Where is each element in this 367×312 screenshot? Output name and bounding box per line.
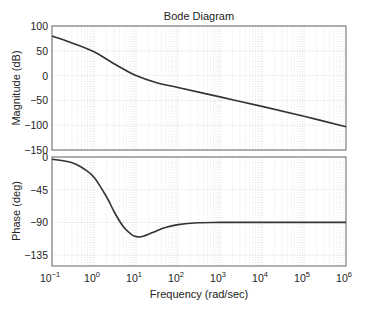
magnitude-axis-label: Magnitude (dB) bbox=[10, 50, 22, 125]
magnitude-tick-label: −50 bbox=[30, 94, 48, 106]
magnitude-tick-label: 100 bbox=[30, 20, 48, 32]
phase-tick-label: −135 bbox=[24, 249, 48, 261]
chart-title: Bode Diagram bbox=[164, 10, 234, 22]
frequency-axis-label: Frequency (rad/sec) bbox=[150, 288, 248, 300]
phase-grid bbox=[52, 157, 346, 266]
figure-caption-cropped bbox=[40, 305, 340, 312]
phase-y-tick-labels: 0−45−90−135 bbox=[24, 151, 48, 261]
magnitude-grid bbox=[52, 26, 346, 150]
frequency-tick-label: 100 bbox=[84, 270, 100, 284]
frequency-x-tick-labels: 10−1100101102103104105106 bbox=[40, 270, 352, 284]
frequency-tick-label: 103 bbox=[210, 270, 226, 284]
magnitude-tick-label: 0 bbox=[42, 70, 48, 82]
frequency-tick-label: 101 bbox=[126, 270, 142, 284]
phase-tick-label: 0 bbox=[42, 151, 48, 163]
phase-axis-label: Phase (deg) bbox=[10, 181, 22, 241]
frequency-tick-label: 105 bbox=[294, 270, 310, 284]
magnitude-tick-label: −100 bbox=[24, 119, 48, 131]
frequency-tick-label: 104 bbox=[252, 270, 268, 284]
magnitude-y-tick-labels: 100500−50−100−150 bbox=[24, 20, 48, 156]
phase-tick-label: −45 bbox=[30, 184, 48, 196]
bode-diagram: Bode Diagram 100500−50−100−150 0−45−90−1… bbox=[0, 0, 367, 312]
phase-tick-label: −90 bbox=[30, 216, 48, 228]
frequency-tick-label: 10−1 bbox=[40, 270, 60, 284]
frequency-tick-label: 102 bbox=[168, 270, 184, 284]
magnitude-tick-label: 50 bbox=[36, 45, 48, 57]
frequency-tick-label: 106 bbox=[336, 270, 352, 284]
